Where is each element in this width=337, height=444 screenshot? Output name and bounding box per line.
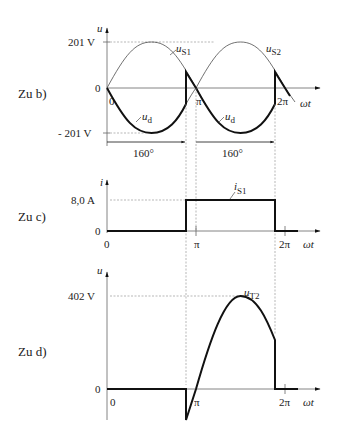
panel-b-label: Zu b) [18,86,47,101]
x-axis-label: ωt [303,238,315,250]
ud-label-1: ud [142,110,153,125]
y-tick-402: 402 V [68,290,95,302]
y-axis-label: u [97,264,103,276]
us2-label: uS2 [266,42,281,57]
x-tick-0: 0 [110,396,116,408]
is1-label: iS1 [234,180,247,196]
panel-c-label: Zu c) [18,209,46,224]
x-tick-2pi: 2π [279,396,291,408]
guide-lines [186,88,275,385]
ut2-label: uT2 [244,286,260,301]
y-tick-8a: 8,0 A [71,194,95,206]
panel-d-label: Zu d) [18,344,47,359]
angle-span-1: 160° [133,147,154,159]
x-tick-0: 0 [104,238,110,250]
x-axis-label: ωt [300,97,312,109]
ud-label-2: ud [225,110,236,125]
y-tick-0: 0 [95,82,101,94]
y-tick-neg201: - 201 V [58,127,91,139]
converter-waveform-diagram: Zu b) u ωt 201 V 0 - 201 V 0 π 2π uS1 uS… [0,0,337,444]
panel-b: Zu b) u ωt 201 V 0 - 201 V 0 π 2π uS1 uS… [18,22,320,159]
y-axis-label: i [100,176,103,188]
x-axis-label: ωt [303,396,315,408]
us1-curve [107,42,206,106]
ut2-curve [107,296,298,420]
y-tick-0: 0 [95,225,101,237]
x-tick-pi: π [194,396,200,408]
x-tick-pi: π [194,238,200,250]
y-axis-label: u [97,22,103,34]
x-tick-2pi: 2π [279,238,291,250]
y-tick-0: 0 [95,383,101,395]
angle-span-2: 160° [222,147,243,159]
y-tick-201: 201 V [68,36,95,48]
us1-label: uS1 [176,42,191,57]
is1-curve [107,200,298,231]
x-tick-2pi: 2π [277,95,289,107]
